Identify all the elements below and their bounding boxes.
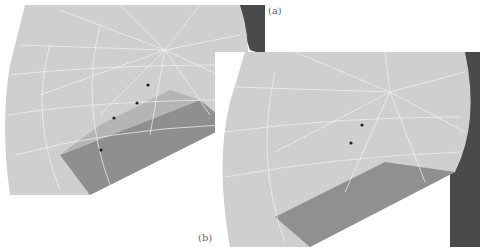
mesh-render-b xyxy=(215,52,480,247)
panel-b xyxy=(215,52,480,247)
panel-a-label: (a) xyxy=(268,5,282,16)
panel-b-label: (b) xyxy=(198,232,212,243)
